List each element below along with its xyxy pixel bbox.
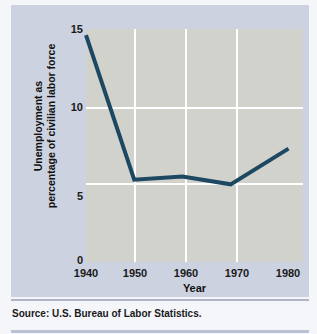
plot-area bbox=[86, 29, 303, 262]
data-series-unemployment-rate bbox=[86, 29, 303, 262]
y-axis-title-line-1: Unemployment as bbox=[32, 26, 45, 226]
bottom-rule bbox=[11, 330, 309, 333]
y-tick-label-10: 10 bbox=[61, 102, 83, 113]
x-axis-tick-labels: 1940 1950 1960 1970 1980 bbox=[86, 267, 303, 283]
x-axis-title: Year bbox=[86, 282, 303, 294]
x-tick-label-1950: 1950 bbox=[123, 267, 147, 279]
x-tick-label-1970: 1970 bbox=[225, 267, 249, 279]
y-axis-tick-labels: 15 10 5 0 bbox=[57, 5, 83, 297]
unemployment-line-chart-figure: Unemployment as percentage of civilian l… bbox=[0, 0, 317, 334]
source-note: Source: U.S. Bureau of Labor Statistics. bbox=[12, 308, 201, 319]
y-tick-label-0: 0 bbox=[61, 255, 83, 266]
y-tick-label-15: 15 bbox=[61, 24, 83, 35]
y-tick-label-5: 5 bbox=[61, 191, 83, 202]
y-axis-title: Unemployment as percentage of civilian l… bbox=[32, 26, 58, 226]
x-tick-label-1940: 1940 bbox=[74, 267, 98, 279]
panel-divider bbox=[11, 299, 309, 301]
x-tick-label-1960: 1960 bbox=[174, 267, 198, 279]
chart-panel: Unemployment as percentage of civilian l… bbox=[11, 5, 309, 297]
x-tick-label-1980: 1980 bbox=[276, 267, 300, 279]
